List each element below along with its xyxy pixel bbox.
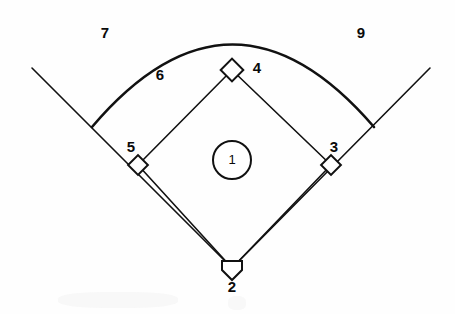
position-label-second-base: 4	[253, 59, 262, 76]
position-label-third-base: 5	[127, 138, 135, 155]
baseball-field-diagram: 1 2 3 4 5 6 7 9	[0, 0, 455, 314]
position-label-shortstop: 6	[156, 66, 164, 83]
position-label-first-base: 3	[330, 138, 338, 155]
position-label-catcher: 2	[228, 278, 236, 295]
position-label-pitcher: 1	[228, 152, 235, 167]
outfield-fence-arc	[92, 45, 374, 128]
position-label-left-field: 7	[101, 24, 109, 41]
field-canvas: 1 2 3 4 5 6 7 9	[0, 0, 455, 314]
position-label-right-field: 9	[357, 24, 365, 41]
